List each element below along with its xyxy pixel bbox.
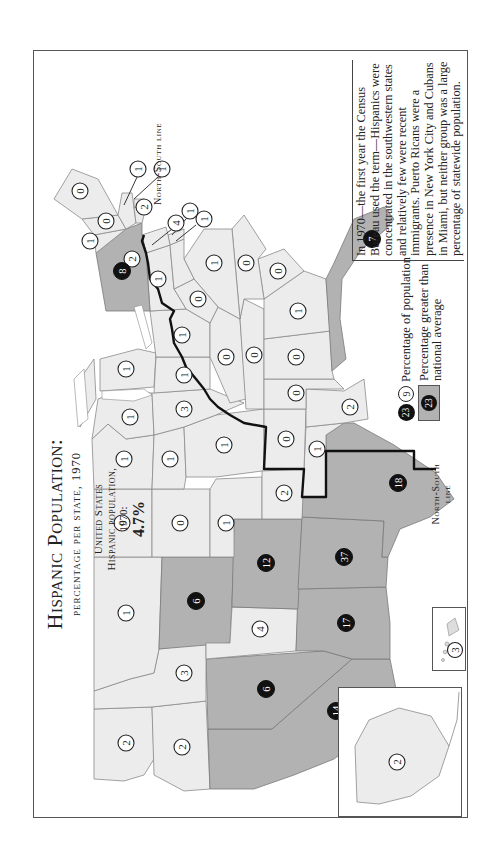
badge-hawaii: 3	[448, 643, 463, 658]
badge-nebraska: 1	[218, 515, 234, 531]
badge-colorado: 12	[258, 555, 275, 572]
badge-washington: 2	[118, 735, 134, 751]
badge-alabama: 0	[288, 349, 304, 365]
ns-label-east: North-South line	[152, 123, 163, 205]
avg-value: 4.7%	[130, 449, 148, 589]
title-sub: percentage per state, 1970	[69, 369, 84, 699]
svg-text:2: 2	[344, 404, 356, 410]
svg-text:2: 2	[278, 490, 290, 496]
badge-south-dakota: 0	[172, 515, 188, 531]
svg-text:3: 3	[449, 647, 461, 653]
badge-west-virginia: 0	[190, 291, 206, 307]
badge-iowa: 1	[162, 451, 178, 467]
map-title: Hispanic Population: percentage per stat…	[42, 369, 84, 699]
svg-text:6: 6	[191, 598, 202, 603]
badge-montana: 1	[118, 605, 134, 621]
svg-text:1: 1	[218, 442, 230, 448]
svg-text:1: 1	[84, 238, 96, 244]
legend-row-percentage: 23 9 Percentage of population	[396, 191, 416, 421]
svg-text:18: 18	[393, 478, 404, 489]
badge-idaho: 3	[176, 665, 192, 681]
hawaii-inset: 3	[432, 607, 466, 671]
badge-new-mexico: 37	[336, 549, 353, 566]
legend: 23 9 Percentage of population 23 Percent…	[396, 191, 444, 421]
title-main: Hispanic Population:	[42, 369, 68, 699]
svg-text:0: 0	[74, 188, 86, 194]
svg-text:0: 0	[174, 520, 186, 526]
hawaii-big-island	[447, 618, 459, 636]
ns-label-west: North-South line	[430, 459, 452, 529]
svg-text:1: 1	[120, 366, 132, 372]
avg-line1: United States	[92, 449, 105, 589]
badge-pennsylvania: 1	[150, 271, 166, 287]
svg-text:2: 2	[138, 204, 150, 210]
svg-text:4: 4	[170, 220, 182, 226]
alaska-panhandle	[449, 692, 459, 746]
svg-text:1: 1	[152, 276, 164, 282]
badge-massachusetts: 1	[130, 161, 146, 177]
badge-south-carolina: 0	[270, 263, 286, 279]
badge-new-york: 8	[114, 263, 131, 280]
badge-oklahoma: 1	[309, 441, 325, 457]
svg-text:17: 17	[341, 618, 352, 629]
svg-text:0: 0	[100, 218, 112, 224]
badge-georgia: 1	[290, 303, 306, 319]
legend-swatch: 23	[418, 385, 440, 421]
svg-text:1: 1	[120, 610, 132, 616]
badge-ohio: 1	[174, 327, 190, 343]
rotated-map-canvas: 2 2 14 6 3 1 6 4 17 12 37 18 0 0 1 2 1 1…	[34, 51, 468, 818]
badge-missouri: 1	[216, 437, 232, 453]
svg-text:1: 1	[178, 372, 190, 378]
svg-text:3: 3	[178, 406, 190, 412]
badge-alaska: 2	[389, 754, 405, 770]
svg-text:1: 1	[292, 308, 304, 314]
svg-text:0: 0	[240, 260, 252, 266]
badge-michigan: 1	[118, 361, 134, 377]
badge-mississippi: 0	[288, 385, 304, 401]
svg-text:2: 2	[120, 740, 132, 746]
svg-text:1: 1	[124, 414, 136, 420]
badge-virginia: 1	[206, 255, 222, 271]
svg-text:1: 1	[164, 456, 176, 462]
hawaii-map: 3	[433, 608, 465, 670]
svg-text:1: 1	[184, 208, 196, 214]
badge-arkansas: 0	[278, 431, 294, 447]
avg-line3: 1970:	[117, 449, 130, 589]
svg-text:3: 3	[178, 670, 190, 676]
svg-text:2: 2	[391, 759, 403, 765]
badge-wyoming: 6	[188, 593, 205, 610]
legend-dark-badge: 23	[398, 404, 415, 421]
badge-indiana: 1	[176, 367, 192, 383]
badge-tennessee: 0	[246, 347, 262, 363]
svg-text:0: 0	[248, 352, 260, 358]
svg-text:1: 1	[311, 446, 323, 452]
svg-text:37: 37	[339, 552, 350, 563]
badge-texas: 18	[390, 475, 407, 492]
svg-text:0: 0	[280, 436, 292, 442]
svg-text:1: 1	[208, 260, 220, 266]
legend-swatch-badge: 23	[421, 395, 437, 411]
svg-text:0: 0	[272, 268, 284, 274]
badge-maine: 0	[72, 183, 88, 199]
badge-wisconsin: 1	[122, 409, 138, 425]
badge-maryland: 1	[196, 211, 212, 227]
svg-text:2: 2	[176, 744, 188, 750]
svg-text:1: 1	[220, 520, 232, 526]
badge-utah: 4	[252, 621, 268, 637]
svg-text:6: 6	[261, 686, 272, 691]
badge-delaware: 1	[182, 203, 198, 219]
badge-nevada: 6	[258, 681, 275, 698]
svg-text:2: 2	[126, 256, 138, 262]
svg-text:12: 12	[261, 558, 272, 569]
badge-vermont: 1	[82, 233, 98, 249]
svg-text:8: 8	[117, 268, 128, 273]
badge-new-hampshire: 0	[98, 213, 114, 229]
legend-row-above-average: 23 Percentage greater than national aver…	[418, 191, 444, 421]
badge-kentucky: 0	[218, 349, 234, 365]
svg-text:1: 1	[132, 166, 144, 172]
alaska-map: 2	[339, 688, 461, 816]
map-frame: 2 2 14 6 3 1 6 4 17 12 37 18 0 0 1 2 1 1…	[33, 50, 468, 818]
badge-arizona: 17	[338, 615, 355, 632]
legend-light-badge: 9	[398, 386, 414, 402]
badge-kansas: 2	[276, 485, 292, 501]
